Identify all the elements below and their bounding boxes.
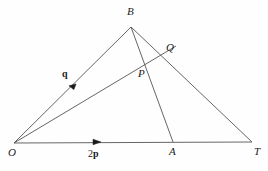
vector-label-2p: 2p — [88, 149, 99, 159]
vector-q-arrowhead — [69, 84, 76, 90]
point-label-O: O — [8, 147, 16, 158]
segment-O-T — [14, 142, 252, 143]
vector-q-symbol: q — [62, 68, 68, 79]
vector-2p-arrowhead — [93, 139, 101, 145]
point-label-B: B — [127, 6, 134, 17]
vector-2p-symbol: p — [93, 148, 99, 159]
point-label-A: A — [169, 146, 176, 157]
vector-label-q: q — [62, 69, 68, 79]
segment-B-T — [131, 27, 252, 142]
point-label-Q: Q — [166, 42, 174, 53]
segment-O-Q — [14, 46, 176, 143]
geometry-figure: O B Q P A T q 2p — [0, 0, 268, 171]
geometry-canvas — [0, 0, 268, 171]
point-label-P: P — [138, 68, 145, 79]
point-label-T: T — [254, 146, 260, 157]
